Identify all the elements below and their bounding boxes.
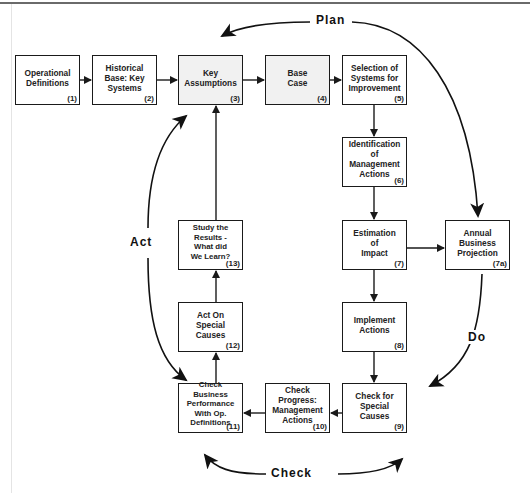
check-arc-left [205, 455, 266, 474]
box-number: (9) [394, 422, 404, 431]
process-box-check-business-performance: Check Business Performance With Op. Defi… [178, 383, 243, 433]
box-label: Key Assumptions [181, 68, 240, 88]
box-label: Selection of Systems for Improvement [345, 63, 404, 93]
box-number: (11) [226, 422, 240, 431]
process-box-check-progress: Check Progress: Management Actions (10) [265, 383, 330, 433]
box-number: (1) [67, 94, 77, 103]
process-box-act-on-special-causes: Act On Special Causes (12) [178, 302, 243, 352]
box-number: (7) [394, 259, 404, 268]
act-arc-top [148, 116, 186, 228]
box-number: (6) [394, 176, 404, 185]
process-box-operational-definitions: Operational Definitions (1) [15, 55, 80, 105]
process-box-selection-of-systems: Selection of Systems for Improvement (5) [342, 55, 407, 105]
box-number: (2) [144, 94, 154, 103]
process-box-base-case: Base Case (4) [265, 55, 330, 105]
box-label: Check for Special Causes [345, 391, 404, 421]
box-label: Identification of Management Actions [345, 139, 404, 179]
box-label: Historical Base: Key Systems [95, 63, 154, 93]
phase-label-check: Check [268, 466, 315, 480]
box-number: (7a) [493, 259, 507, 268]
process-box-historical-base: Historical Base: Key Systems (2) [92, 55, 157, 105]
box-label: Base Case [268, 68, 327, 88]
plan-arc-left [222, 22, 310, 36]
box-label: Study the Results - What did We Learn? [181, 223, 240, 261]
phase-label-plan: Plan [313, 13, 348, 27]
box-label: Check Business Performance With Op. Defi… [181, 380, 240, 428]
box-label: Check Progress: Management Actions [268, 385, 327, 425]
phase-label-act: Act [127, 235, 155, 249]
box-number: (4) [317, 94, 327, 103]
box-number: (10) [313, 422, 327, 431]
process-box-annual-business-projection: Annual Business Projection (7a) [445, 220, 510, 270]
box-label: Implement Actions [345, 315, 404, 335]
phase-label-do: Do [465, 330, 489, 344]
box-number: (12) [226, 341, 240, 350]
box-number: (8) [394, 341, 404, 350]
box-number: (13) [226, 259, 240, 268]
check-arc-right [338, 459, 402, 474]
process-box-identification-of-management-actions: Identification of Management Actions (6) [342, 137, 407, 187]
process-box-check-for-special-causes: Check for Special Causes (9) [342, 383, 407, 433]
box-number: (3) [230, 94, 240, 103]
process-box-study-the-results: Study the Results - What did We Learn? (… [178, 220, 243, 270]
box-label: Operational Definitions [18, 68, 77, 88]
box-label: Annual Business Projection [448, 228, 507, 258]
box-label: Act On Special Causes [181, 310, 240, 340]
process-box-key-assumptions: Key Assumptions (3) [178, 55, 243, 105]
process-box-implement-actions: Implement Actions (8) [342, 302, 407, 352]
box-label: Estimation of Impact [345, 228, 404, 258]
box-number: (5) [394, 94, 404, 103]
process-box-estimation-of-impact: Estimation of Impact (7) [342, 220, 407, 270]
